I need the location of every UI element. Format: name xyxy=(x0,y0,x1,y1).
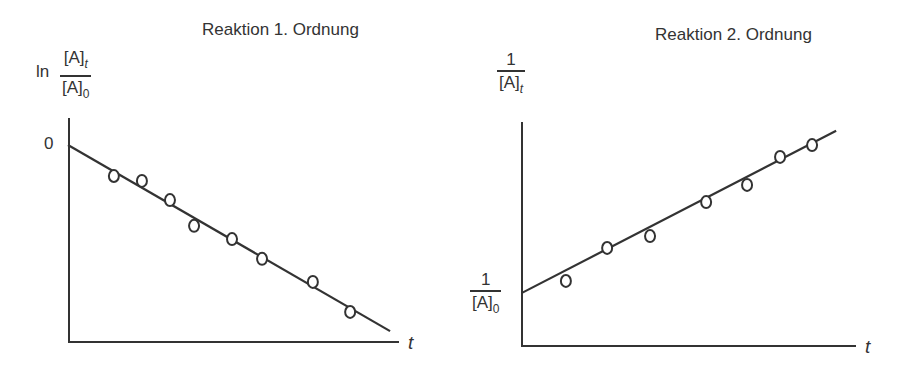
data-point xyxy=(775,151,785,163)
data-point xyxy=(308,276,318,288)
data-point xyxy=(602,242,612,254)
data-points xyxy=(561,139,817,287)
data-point xyxy=(257,253,267,265)
data-point xyxy=(742,179,752,191)
plot-area xyxy=(0,0,455,375)
data-point xyxy=(701,196,711,208)
fit-line xyxy=(522,131,836,293)
plot-area xyxy=(455,0,910,375)
data-point xyxy=(137,175,147,187)
data-point xyxy=(165,194,175,206)
data-point xyxy=(345,306,355,318)
data-point xyxy=(227,233,237,245)
data-point xyxy=(561,275,571,287)
data-point xyxy=(189,220,199,232)
data-point xyxy=(109,170,119,182)
data-point xyxy=(807,139,817,151)
data-points xyxy=(109,170,355,318)
data-point xyxy=(645,230,655,242)
chart-second-order: Reaktion 2. Ordnung 1 [A]t 1 [A]0 t xyxy=(455,0,910,375)
chart-first-order: Reaktion 1. Ordnung ln [A]t [A]0 0 t xyxy=(0,0,455,375)
